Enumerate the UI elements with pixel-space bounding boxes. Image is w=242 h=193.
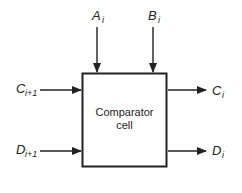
label-d-in: D xyxy=(16,142,25,157)
label-b-sub: i xyxy=(158,15,161,25)
label-a: A xyxy=(91,8,101,23)
label-c-out-sub: i xyxy=(222,90,225,100)
label-c-in-sub: i+1 xyxy=(25,88,37,98)
block-label-line2: cell xyxy=(116,119,133,131)
label-d-out-sub: i xyxy=(222,150,225,160)
comparator-cell-diagram: Comparator cell A i B i C i+1 D i+1 C i … xyxy=(0,0,242,193)
label-c-out: C xyxy=(212,83,222,98)
label-a-sub: i xyxy=(102,15,105,25)
label-d-in-sub: i+1 xyxy=(25,149,37,159)
label-d-out: D xyxy=(212,143,221,158)
label-b: B xyxy=(148,8,157,23)
block-label-line1: Comparator xyxy=(95,106,153,118)
